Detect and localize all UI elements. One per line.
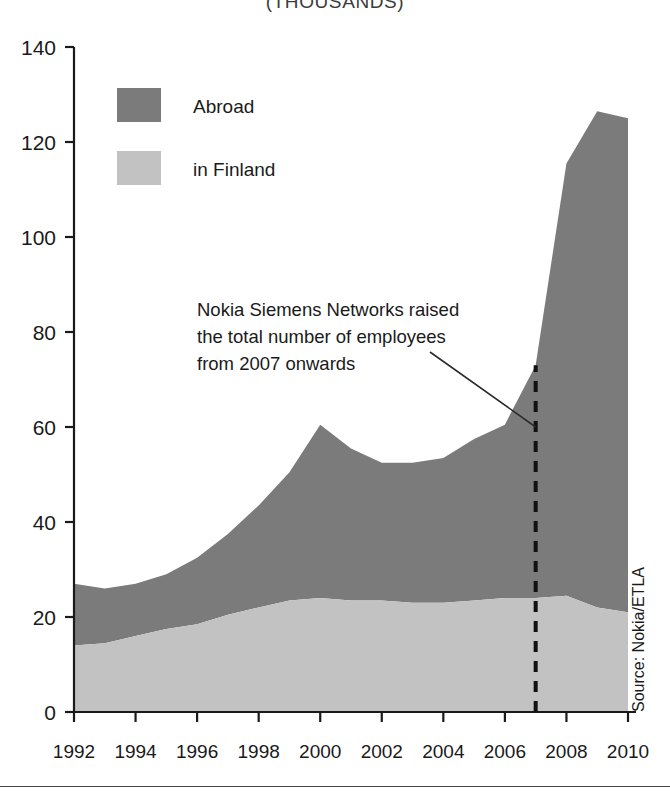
source-text: Source: Nokia/ETLA bbox=[630, 567, 647, 712]
x-tick-label: 1998 bbox=[238, 741, 280, 762]
y-tick-label: 20 bbox=[33, 606, 56, 629]
chart-page: (THOUSANDS) 020406080100120140 199219941… bbox=[0, 0, 670, 804]
x-tick-label: 2002 bbox=[361, 741, 403, 762]
y-tick-labels: 020406080100120140 bbox=[21, 36, 56, 724]
source-credit: Source: Nokia/ETLA bbox=[630, 567, 647, 712]
y-tick-marks bbox=[65, 47, 74, 712]
y-tick-label: 60 bbox=[33, 416, 56, 439]
y-tick-label: 80 bbox=[33, 321, 56, 344]
y-tick-label: 140 bbox=[21, 36, 56, 59]
annotation-line-1: Nokia Siemens Networks raised bbox=[197, 299, 459, 320]
y-tick-label: 0 bbox=[44, 701, 56, 724]
x-tick-label: 2008 bbox=[545, 741, 587, 762]
area-series-group bbox=[74, 111, 628, 712]
x-tick-label: 2000 bbox=[299, 741, 341, 762]
area-abroad bbox=[74, 111, 628, 645]
annotation-line-3: from 2007 onwards bbox=[197, 353, 355, 374]
annotation-group: Nokia Siemens Networks raised the total … bbox=[197, 299, 536, 427]
x-tick-marks bbox=[74, 712, 628, 722]
legend: Abroad in Finland bbox=[117, 88, 275, 185]
bottom-divider bbox=[0, 786, 670, 787]
x-tick-label: 2004 bbox=[422, 741, 465, 762]
legend-swatch-in-finland bbox=[117, 151, 161, 185]
y-tick-label: 40 bbox=[33, 511, 56, 534]
x-tick-label: 2006 bbox=[484, 741, 526, 762]
legend-swatch-abroad bbox=[117, 88, 161, 122]
x-tick-labels: 1992199419961998200020022004200620082010 bbox=[53, 741, 649, 762]
y-tick-label: 120 bbox=[21, 131, 56, 154]
legend-label-abroad: Abroad bbox=[193, 96, 254, 117]
y-tick-label: 100 bbox=[21, 226, 56, 249]
x-tick-label: 2010 bbox=[607, 741, 649, 762]
annotation-line-2: the total number of employees bbox=[197, 326, 446, 347]
x-tick-label: 1994 bbox=[114, 741, 157, 762]
annotation-leader-line bbox=[430, 352, 536, 427]
legend-label-in-finland: in Finland bbox=[193, 159, 275, 180]
x-tick-label: 1992 bbox=[53, 741, 95, 762]
y-axis: 020406080100120140 bbox=[21, 36, 74, 724]
x-tick-label: 1996 bbox=[176, 741, 218, 762]
employment-stacked-area-chart: 020406080100120140 199219941996199820002… bbox=[0, 0, 670, 804]
x-axis: 1992199419961998200020022004200620082010 bbox=[53, 712, 649, 762]
